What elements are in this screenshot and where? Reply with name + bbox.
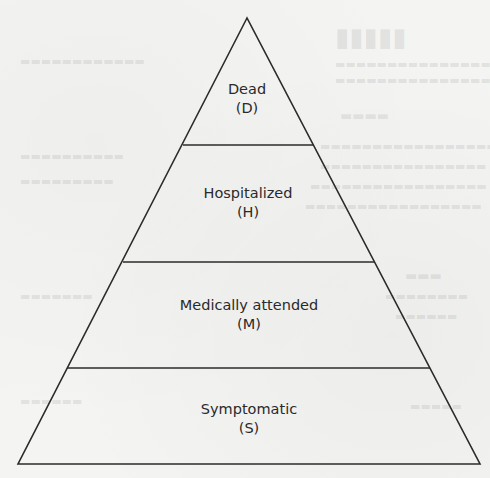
- level-name: Medically attended: [180, 296, 318, 315]
- level-hospitalized: Hospitalized (H): [204, 184, 293, 222]
- level-name: Dead: [228, 80, 266, 99]
- level-code: (D): [228, 99, 266, 118]
- level-name: Hospitalized: [204, 184, 293, 203]
- level-symptomatic: Symptomatic (S): [201, 400, 297, 438]
- level-medically-attended: Medically attended (M): [180, 296, 318, 334]
- level-code: (H): [204, 203, 293, 222]
- level-code: (M): [180, 315, 318, 334]
- level-name: Symptomatic: [201, 400, 297, 419]
- level-dead: Dead (D): [228, 80, 266, 118]
- level-code: (S): [201, 419, 297, 438]
